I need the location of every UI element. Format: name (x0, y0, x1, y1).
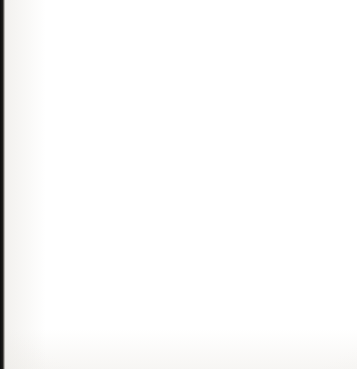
figure-page: (b) (c) (0, 0, 357, 369)
panel-c-label: (c) (265, 168, 282, 183)
panel-b-label: (b) (14, 40, 31, 55)
panel-c-thick-edges (172, 172, 344, 341)
panel-c-mesh (0, 0, 357, 369)
